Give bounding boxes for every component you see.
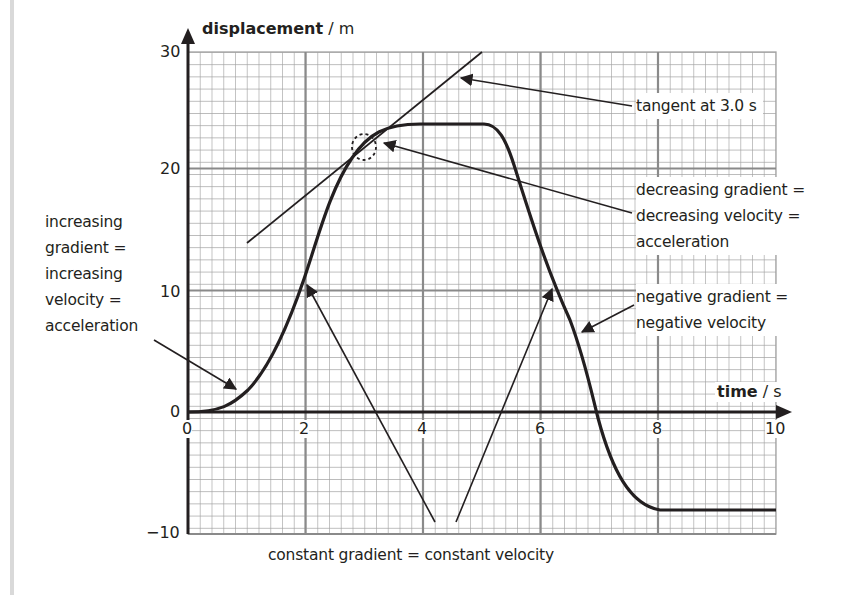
x-tick-10: 10 <box>765 420 785 438</box>
y-axis-title: displacement / m <box>200 19 356 39</box>
x-axis-title: time / s <box>715 382 784 402</box>
label-tangent: tangent at 3.0 s <box>636 93 763 119</box>
y-tick-10: 10 <box>160 283 180 301</box>
y-tick-minus-10: −10 <box>146 524 180 542</box>
y-axis-arrow-icon <box>181 28 195 44</box>
y-tick-30: 30 <box>160 43 180 61</box>
x-axis-arrow-icon <box>776 405 792 419</box>
x-tick-2: 2 <box>299 420 309 438</box>
y-tick-20: 20 <box>160 160 180 178</box>
x-tick-8: 8 <box>652 420 662 438</box>
x-tick-4: 4 <box>417 420 427 438</box>
label-constant-gradient: constant gradient = constant velocity <box>268 542 554 568</box>
x-tick-0: 0 <box>182 420 192 438</box>
label-negative-gradient: negative gradient = negative velocity <box>636 284 792 336</box>
y-tick-0: 0 <box>170 403 180 421</box>
x-tick-6: 6 <box>535 420 545 438</box>
label-decreasing-gradient: decreasing gradient = decreasing velocit… <box>636 177 809 255</box>
label-increasing-gradient: increasing gradient = increasing velocit… <box>45 209 138 339</box>
